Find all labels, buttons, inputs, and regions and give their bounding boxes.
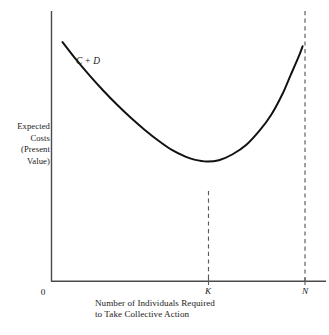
origin-label: 0: [36, 287, 50, 297]
x-tick-label-k: K: [201, 286, 215, 296]
plot-background: [0, 0, 329, 335]
cost-curve-plot: [0, 0, 329, 335]
y-axis-label-line-2: Costs: [2, 133, 50, 145]
curve-series-label: C + D: [76, 56, 100, 67]
figure-root: Expected Costs (Present Value) Number of…: [0, 0, 329, 335]
x-axis-label: Number of Individuals Required to Take C…: [95, 298, 295, 321]
x-axis-label-line-2: to Take Collective Action: [95, 309, 295, 320]
y-axis-label: Expected Costs (Present Value): [2, 121, 50, 167]
x-tick-label-n: N: [298, 286, 312, 296]
y-axis-label-line-4: Value): [2, 156, 50, 168]
y-axis-label-line-3: (Present: [2, 144, 50, 156]
y-axis-label-line-1: Expected: [2, 121, 50, 133]
x-axis-label-line-1: Number of Individuals Required: [95, 298, 295, 309]
